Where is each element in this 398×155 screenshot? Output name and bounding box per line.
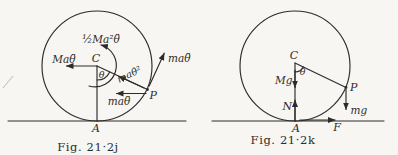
rim-point-label: P (349, 81, 358, 94)
rim-point-dot (146, 88, 149, 91)
main-weight-label: Mg (274, 74, 293, 86)
figure-21-2k: C θ Mg N A F P mg Fig. 21·2k (212, 11, 384, 147)
figure-caption: Fig. 21·2j (57, 140, 119, 154)
contact-point-label: A (91, 122, 100, 135)
center-label: C (92, 52, 101, 65)
scan-artifact-mark (3, 76, 13, 88)
translation-force-label: maθ̈ (108, 95, 131, 107)
angle-label: θ (300, 66, 306, 77)
tangential-force-label: maθ̈ (168, 52, 191, 64)
figure-21-2j: C θ Maθ̈ ½Ma²θ̈ maθ̇² maθ̈ maθ̈ P A Fig.… (8, 11, 191, 154)
center-label: C (290, 49, 299, 62)
textbook-figure-panel: C θ Maθ̈ ½Ma²θ̈ maθ̇² maθ̈ maθ̈ P A Fig.… (0, 0, 398, 155)
frame-inertia-force-label: Maθ̈ (51, 53, 76, 65)
angle-label: θ (99, 69, 105, 80)
particle-weight-label: mg (351, 104, 368, 116)
inertia-couple-label: ½Ma²θ̈ (82, 33, 120, 45)
normal-reaction-label: N (281, 100, 292, 113)
figure-caption: Fig. 21·2k (251, 133, 316, 147)
friction-force-label: F (332, 121, 341, 134)
rim-point-label: P (149, 89, 158, 102)
